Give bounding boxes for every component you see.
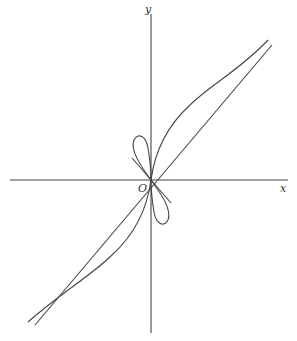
loop-lower-right <box>151 180 169 224</box>
y-axis-label: y <box>144 3 152 16</box>
loop-upper-left <box>133 136 151 180</box>
s-curve <box>28 40 268 322</box>
origin-label: O <box>138 182 147 195</box>
x-axis-label: x <box>280 182 287 195</box>
diagram-canvas: y x O <box>0 0 297 341</box>
asymptote-line <box>35 45 272 325</box>
